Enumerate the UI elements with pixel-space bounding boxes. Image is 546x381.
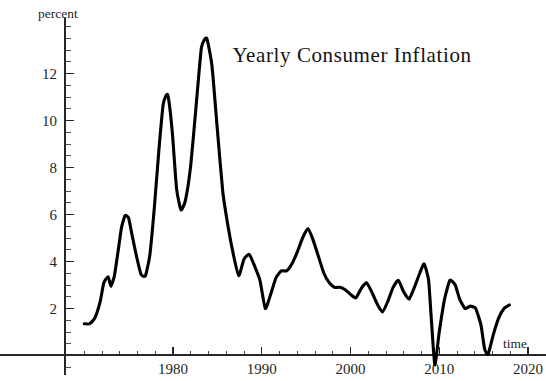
y-axis-minor-ticks [65, 27, 71, 368]
y-tick-label: 2 [50, 301, 58, 317]
chart-title: Yearly Consumer Inflation [232, 43, 471, 67]
x-tick-label: 2010 [424, 361, 454, 377]
x-axis-caption: time [503, 336, 527, 351]
x-axis-tick-labels: 19801990200020102020 [158, 361, 543, 377]
y-axis-caption: percent [38, 6, 78, 21]
x-tick-label: 2020 [513, 361, 543, 377]
y-tick-label: 6 [50, 207, 58, 223]
y-axis-tick-labels: 24681012 [42, 66, 58, 317]
y-tick-label: 4 [50, 254, 58, 270]
y-tick-label: 12 [42, 66, 57, 82]
chart-screenshot: percent time Yearly Consumer Inflation 1… [0, 0, 546, 381]
y-tick-label: 8 [50, 160, 58, 176]
x-tick-label: 1990 [247, 361, 277, 377]
x-tick-label: 1980 [158, 361, 188, 377]
y-tick-label: 10 [42, 113, 57, 129]
x-tick-label: 2000 [336, 361, 366, 377]
inflation-series-line [84, 38, 509, 365]
inflation-line-chart: percent time Yearly Consumer Inflation 1… [0, 0, 546, 381]
